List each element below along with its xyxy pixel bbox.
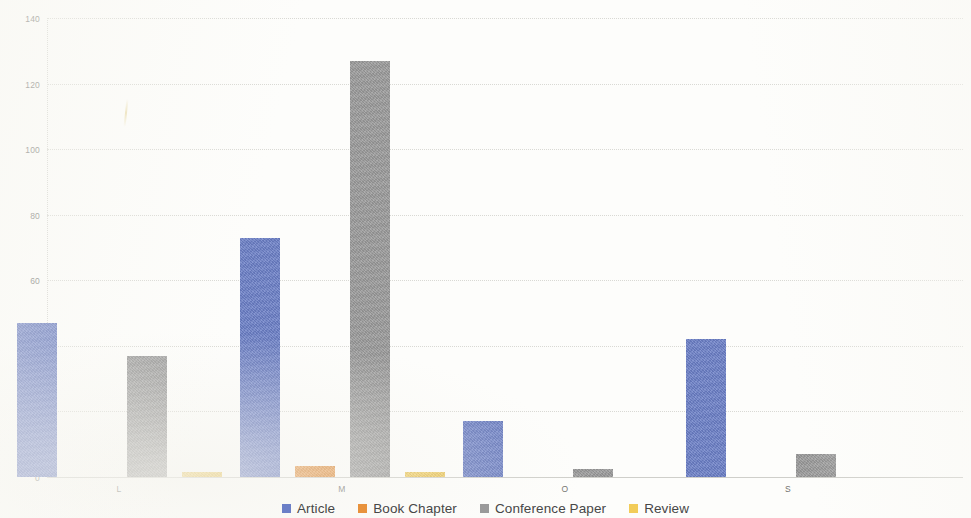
bar-l-review: [182, 472, 222, 477]
bar-m-review: [405, 472, 445, 477]
legend-swatch-book-chapter-icon: [358, 504, 367, 513]
bar-l-conference-paper: [127, 356, 167, 477]
gridline-40: 40: [47, 346, 963, 347]
legend-swatch-conference-paper-icon: [480, 504, 489, 513]
legend-item-conference-paper[interactable]: Conference Paper: [480, 501, 606, 516]
legend-item-review[interactable]: Review: [629, 501, 689, 516]
y-tick-label-120: 120: [25, 80, 40, 90]
bar-o-conference-paper: [573, 469, 613, 477]
y-tick-label-140: 140: [25, 14, 40, 24]
gridline-120: 120: [47, 84, 963, 85]
legend-label: Book Chapter: [373, 501, 457, 516]
bar-m-conference-paper: [350, 61, 390, 477]
y-tick-label-80: 80: [30, 211, 40, 221]
x-category-label-l: L: [116, 484, 121, 494]
plot-area: 020406080100120140: [47, 18, 963, 477]
y-tick-label-60: 60: [30, 276, 40, 286]
bar-o-article: [463, 421, 503, 477]
legend-label: Conference Paper: [495, 501, 606, 516]
x-category-label-o: O: [562, 484, 569, 494]
bar-s-conference-paper: [796, 454, 836, 477]
chart-legend: ArticleBook ChapterConference PaperRevie…: [0, 501, 971, 516]
legend-label: Article: [297, 501, 335, 516]
x-category-label-m: M: [338, 484, 345, 494]
gridline-140: 140: [47, 18, 963, 19]
gridline-20: 20: [47, 411, 963, 412]
bar-l-article: [17, 323, 57, 477]
gridline-60: 60: [47, 280, 963, 281]
x-category-label-s: S: [785, 484, 791, 494]
bar-m-book-chapter: [295, 466, 335, 477]
legend-swatch-review-icon: [629, 504, 638, 513]
gridline-80: 80: [47, 215, 963, 216]
legend-swatch-article-icon: [282, 504, 291, 513]
legend-item-book-chapter[interactable]: Book Chapter: [358, 501, 457, 516]
gridline-100: 100: [47, 149, 963, 150]
bar-chart: 020406080100120140 LMOS ArticleBook Chap…: [0, 0, 971, 518]
legend-item-article[interactable]: Article: [282, 501, 335, 516]
bar-s-article: [686, 339, 726, 477]
y-tick-label-100: 100: [25, 145, 40, 155]
gridline-0: 0: [47, 477, 963, 478]
bar-m-article: [240, 238, 280, 477]
legend-label: Review: [644, 501, 689, 516]
